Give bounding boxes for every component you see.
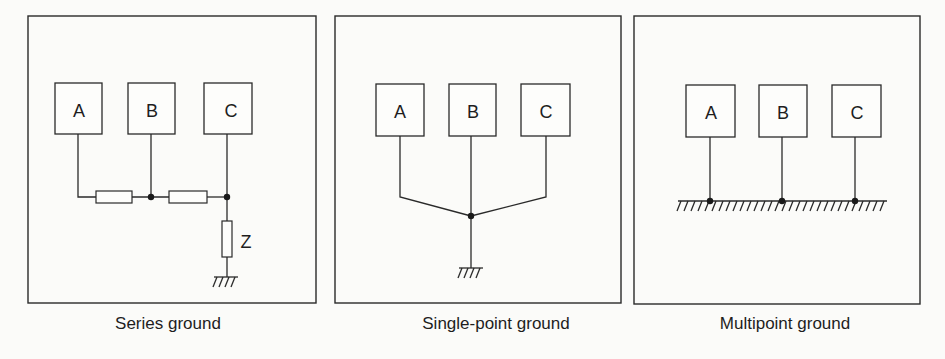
unit-b-label: B xyxy=(777,103,789,123)
junction-dot xyxy=(468,213,474,219)
unit-c-label: C xyxy=(851,103,864,123)
unit-b-label: B xyxy=(467,102,479,122)
wire-c xyxy=(471,136,546,216)
junction-dot xyxy=(779,198,785,204)
panel-frame xyxy=(335,16,621,303)
panel-caption: Single-point ground xyxy=(422,314,569,333)
panel-frame xyxy=(634,16,920,304)
panel-caption: Multipoint ground xyxy=(720,314,850,333)
resistor-bc xyxy=(169,191,207,203)
unit-a-label: A xyxy=(705,103,717,123)
junction-dot xyxy=(224,194,230,200)
ground-icon xyxy=(213,277,238,287)
wire-a xyxy=(400,136,471,216)
unit-b-label: B xyxy=(146,101,158,121)
unit-c-label: C xyxy=(540,102,553,122)
panel-caption: Series ground xyxy=(115,314,221,333)
ground-icon xyxy=(458,268,483,278)
panel-single-point-ground: A B C Single-point ground xyxy=(335,16,621,333)
grounding-diagram: A B C Z Series ground A xyxy=(0,0,945,359)
junction-dot xyxy=(852,198,858,204)
impedance-z-label: Z xyxy=(241,232,252,252)
wire-a xyxy=(78,134,96,197)
junction-dot xyxy=(148,194,154,200)
unit-a-label: A xyxy=(73,101,85,121)
unit-c-label: C xyxy=(225,101,238,121)
junction-dot xyxy=(707,198,713,204)
unit-a-label: A xyxy=(394,102,406,122)
impedance-z xyxy=(222,221,232,257)
resistor-ab xyxy=(96,191,132,203)
panel-series-ground: A B C Z Series ground xyxy=(28,16,316,333)
panel-multipoint-ground: A B C Multipoint ground xyxy=(634,16,920,333)
panel-frame xyxy=(28,16,316,303)
